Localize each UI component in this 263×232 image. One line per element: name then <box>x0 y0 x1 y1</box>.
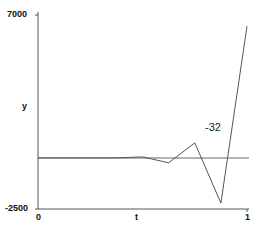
chart-canvas <box>0 0 263 232</box>
y-axis-label: y <box>22 101 27 111</box>
x-axis-label: t <box>135 212 138 222</box>
x-tick-label-right: 1 <box>245 212 250 222</box>
x-tick-label-left: 0 <box>36 212 41 222</box>
data-series-line <box>38 26 247 203</box>
y-tick-label-top: 7000 <box>7 9 27 19</box>
y-tick-label-bottom: -2500 <box>5 203 28 213</box>
value-annotation: -32 <box>205 121 221 133</box>
